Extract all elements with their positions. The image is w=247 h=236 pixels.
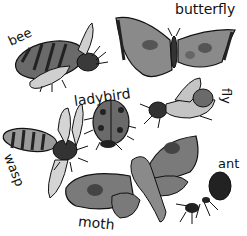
label-ant: ant (218, 157, 239, 170)
insects-illustration: bee butterfly ladybird fly wasp moth ant (0, 0, 247, 236)
moth-illustration (66, 136, 198, 222)
insects-drawing (0, 0, 247, 236)
ladybird-illustration (84, 100, 136, 150)
label-butterfly: butterfly (175, 2, 235, 16)
fly-illustration (140, 78, 215, 128)
butterfly-illustration (116, 17, 235, 76)
label-moth: moth (78, 214, 116, 232)
label-fly: fly (220, 88, 233, 104)
